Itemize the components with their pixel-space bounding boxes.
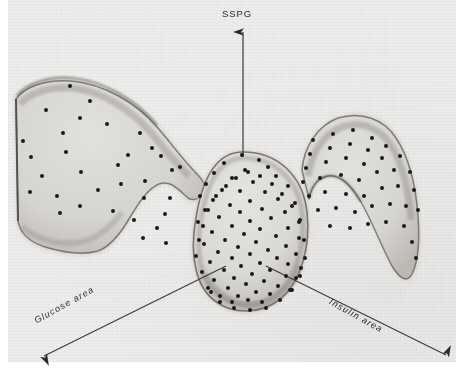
data-point	[178, 165, 182, 169]
data-point	[258, 174, 262, 178]
data-point	[96, 188, 100, 192]
axis-glucose-line	[44, 266, 226, 356]
data-point	[384, 144, 388, 148]
data-point	[224, 184, 228, 188]
data-point	[200, 270, 204, 274]
data-point	[402, 224, 406, 228]
data-point	[260, 300, 264, 304]
data-point	[44, 108, 48, 112]
data-point	[398, 154, 402, 158]
data-point	[230, 224, 234, 228]
data-point	[334, 206, 338, 210]
data-point	[268, 268, 272, 272]
data-point	[316, 208, 320, 212]
data-point	[257, 158, 261, 162]
data-point	[142, 196, 146, 200]
data-point	[55, 194, 59, 198]
data-point	[348, 226, 352, 230]
data-point	[268, 292, 272, 296]
data-point	[217, 215, 221, 219]
data-point	[302, 238, 306, 242]
data-point	[299, 266, 303, 270]
data-point	[380, 156, 384, 160]
data-point	[141, 236, 145, 240]
region-right-lobe	[300, 113, 421, 282]
data-point	[236, 245, 240, 249]
data-point	[29, 155, 33, 159]
data-point	[163, 212, 167, 216]
data-point	[353, 210, 357, 214]
data-point	[283, 210, 287, 214]
data-point	[264, 306, 268, 310]
figure-root: SSPG Glucose area Insulin area	[0, 0, 466, 380]
data-point	[240, 153, 244, 157]
data-point	[246, 170, 250, 174]
data-point	[198, 194, 202, 198]
data-point	[344, 156, 348, 160]
data-point	[228, 203, 232, 207]
data-point	[375, 170, 379, 174]
data-point	[234, 176, 238, 180]
data-point	[275, 256, 279, 260]
data-point	[260, 207, 264, 211]
data-point	[323, 190, 327, 194]
data-point	[366, 148, 370, 152]
data-point	[344, 192, 348, 196]
data-point	[248, 199, 252, 203]
data-point	[223, 238, 227, 242]
data-point	[258, 227, 262, 231]
data-point	[307, 194, 311, 198]
data-point	[331, 132, 335, 136]
figure-vector-layer	[0, 0, 466, 380]
data-point	[58, 211, 62, 215]
data-point	[159, 154, 163, 158]
data-point	[78, 116, 82, 120]
data-point	[286, 184, 290, 188]
data-point	[222, 161, 226, 165]
data-point	[276, 284, 280, 288]
data-point	[244, 282, 248, 286]
data-point	[250, 272, 254, 276]
data-point	[119, 182, 123, 186]
data-point	[21, 139, 25, 143]
data-point	[111, 209, 115, 213]
data-point	[410, 240, 414, 244]
data-point	[68, 84, 72, 88]
data-point	[236, 294, 240, 298]
data-point	[301, 180, 305, 184]
data-point	[242, 232, 246, 236]
data-point	[276, 197, 280, 201]
data-point	[269, 216, 273, 220]
data-point	[79, 170, 83, 174]
data-point	[380, 186, 384, 190]
data-point	[232, 276, 236, 280]
data-point	[280, 192, 284, 196]
data-point	[318, 176, 322, 180]
data-point	[194, 254, 198, 258]
data-point	[370, 136, 374, 140]
data-point	[138, 131, 142, 135]
data-point	[290, 288, 294, 292]
data-point	[132, 218, 136, 222]
data-point	[78, 204, 82, 208]
data-point	[216, 250, 220, 254]
data-point	[88, 99, 92, 103]
data-point	[168, 196, 172, 200]
data-point	[297, 220, 301, 224]
data-point	[238, 210, 242, 214]
data-point	[311, 138, 315, 142]
data-point	[232, 306, 236, 310]
data-point	[222, 268, 226, 272]
data-point	[226, 286, 230, 290]
data-point	[206, 208, 210, 212]
data-point	[284, 274, 288, 278]
data-point	[388, 202, 392, 206]
data-point	[201, 224, 205, 228]
data-point	[274, 234, 278, 238]
data-point	[254, 290, 258, 294]
data-point	[220, 188, 224, 192]
data-point	[202, 242, 206, 246]
data-point	[210, 230, 214, 234]
data-point	[263, 190, 267, 194]
data-point	[211, 198, 215, 202]
